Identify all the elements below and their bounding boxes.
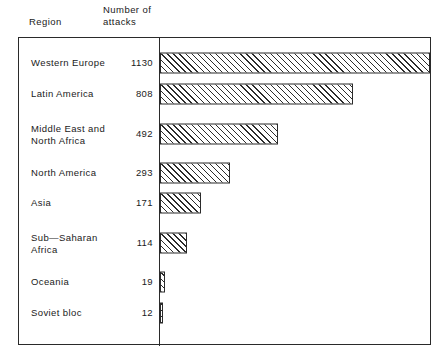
bar — [160, 303, 163, 324]
value-label: 293 — [111, 167, 153, 179]
bar — [160, 272, 165, 293]
plot-frame: Western Europe1130Latin America808Middle… — [18, 37, 431, 345]
bar-chart-figure: Region Number of attacks Western Europe1… — [0, 0, 446, 361]
column-header-region: Region — [29, 16, 62, 28]
value-label: 492 — [111, 128, 153, 140]
value-label: 114 — [111, 237, 153, 249]
value-label: 808 — [111, 88, 153, 100]
value-label: 1130 — [111, 57, 153, 69]
value-label: 171 — [111, 197, 153, 209]
bar — [160, 193, 201, 214]
column-header-number-of-attacks: Number of attacks — [103, 4, 151, 27]
value-label: 12 — [111, 307, 153, 319]
bar — [160, 84, 353, 105]
bar — [160, 53, 430, 74]
value-label: 19 — [111, 276, 153, 288]
bar — [160, 233, 187, 254]
bar — [160, 124, 278, 145]
bar — [160, 163, 230, 184]
